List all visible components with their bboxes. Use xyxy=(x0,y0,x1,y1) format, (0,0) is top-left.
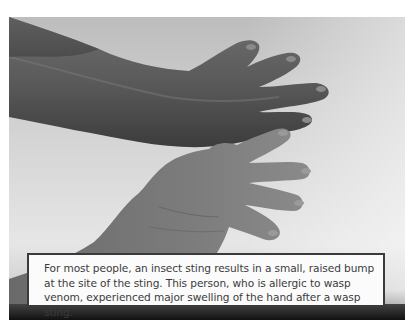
figure-caption-box: For most people, an insect sting results… xyxy=(27,253,385,307)
figure-caption: For most people, an insect sting results… xyxy=(44,261,380,319)
page-top-margin xyxy=(0,0,415,17)
